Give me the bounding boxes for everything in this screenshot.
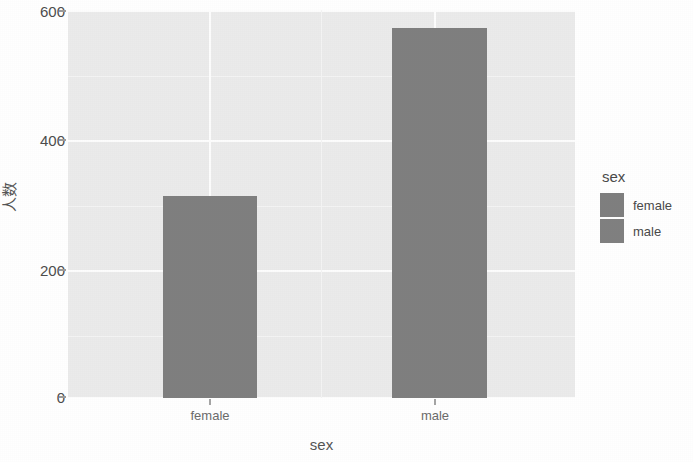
bar-male	[392, 28, 487, 398]
gridline-x-mid	[321, 10, 322, 398]
legend-item-female: female	[600, 192, 672, 218]
bar-female	[163, 196, 257, 398]
legend-label-female: female	[633, 198, 672, 213]
y-tick-mark-200	[59, 269, 66, 271]
y-tick-mark-0	[59, 396, 66, 398]
legend: sex female male	[600, 168, 672, 244]
y-axis-title: 人数	[0, 167, 19, 227]
legend-label-male: male	[633, 224, 661, 239]
legend-swatch-female	[600, 193, 624, 217]
y-tick-mark-400	[59, 139, 66, 141]
legend-title: sex	[600, 168, 672, 185]
plot-panel	[68, 10, 575, 398]
x-axis-title: sex	[68, 436, 575, 453]
x-tick-mark-female	[209, 399, 211, 405]
bar-chart-figure: 600 400 200 0 人数 female male sex sex fem…	[0, 0, 693, 462]
legend-item-male: male	[600, 218, 672, 244]
y-tick-mark-600	[59, 10, 66, 12]
x-tick-mark-male	[434, 399, 436, 405]
x-tick-label-male: male	[385, 409, 485, 423]
x-tick-label-female: female	[160, 409, 260, 423]
legend-swatch-male	[600, 219, 624, 243]
